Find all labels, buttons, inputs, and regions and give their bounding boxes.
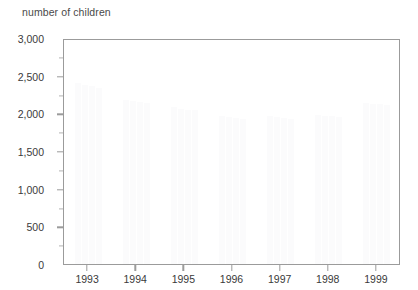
bar [329,116,335,264]
bar [274,117,280,264]
bar [123,100,129,264]
bar-group [123,39,150,264]
bar [192,110,198,264]
y-axis-label: 1,500 [18,146,44,158]
bars-container [64,40,399,264]
bar [240,119,246,264]
bar-group [75,39,102,264]
x-axis-label: 1995 [172,273,195,285]
bar [315,115,321,264]
bar [137,102,143,264]
bar [377,104,383,264]
bar [130,101,136,264]
bar [363,103,369,264]
y-axis-label: 0 [38,259,44,271]
x-axis-label: 1997 [268,273,291,285]
chart-root: number of children 05001,0001,5002,0002,… [0,0,418,290]
bar [336,117,342,264]
x-axis-label: 1994 [124,273,147,285]
bar-group [267,39,294,264]
bar [89,86,95,264]
bar [82,85,88,264]
x-axis-tick [183,265,184,271]
bar-group [363,39,390,264]
bar [171,107,177,264]
x-axis-tick [231,265,232,271]
bar [178,109,184,264]
bar [322,116,328,264]
y-axis-label: 500 [26,221,44,233]
x-axis-label: 1996 [220,273,243,285]
bar [384,105,390,264]
bar [96,88,102,264]
y-axis-label: 3,000 [18,33,44,45]
x-axis-tick [86,265,87,271]
bar [226,117,232,264]
x-axis-label: 1999 [364,273,387,285]
bar-group [315,39,342,264]
y-axis-label: 2,500 [18,71,44,83]
x-axis-tick [375,265,376,271]
bar [281,118,287,264]
bar [219,116,225,264]
bar-group [219,39,246,264]
x-axis-tick [327,265,328,271]
bar [185,110,191,264]
x-axis-label: 1998 [316,273,339,285]
x-axis-label: 1993 [75,273,98,285]
bar [144,103,150,264]
bar [75,83,81,264]
x-axis-tick [135,265,136,271]
x-axis-tick [279,265,280,271]
y-axis-label: 2,000 [18,108,44,120]
bar [370,104,376,264]
y-axis-label: 1,000 [18,184,44,196]
plot-area [63,39,400,265]
bar [288,119,294,264]
y-axis: 05001,0001,5002,0002,5003,000 [0,0,63,290]
bar-group [171,39,198,264]
bar [233,118,239,264]
bar [267,116,273,264]
